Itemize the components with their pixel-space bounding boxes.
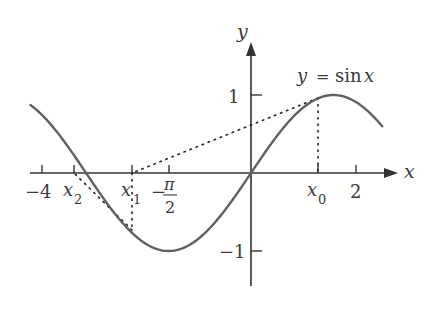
svg-text:sin: sin: [335, 65, 362, 86]
x-tick-label-x0: x 0: [307, 179, 326, 207]
function-label: y = sin x: [296, 65, 374, 86]
newton-construction: [74, 98, 318, 230]
x-tick-label-minus-pi-over-2: − π 2: [151, 175, 177, 217]
svg-text:x: x: [307, 179, 317, 200]
svg-text:0: 0: [318, 192, 326, 207]
x-tick-label-2: 2: [350, 181, 361, 202]
svg-text:=: =: [316, 67, 329, 86]
y-tick-label-minus1: −1: [219, 241, 246, 262]
x-tick-label-x2: x 2: [63, 179, 82, 207]
y-axis-arrow-icon: [246, 42, 256, 56]
x-ticks: [42, 165, 356, 173]
svg-text:x: x: [121, 179, 131, 200]
svg-text:2: 2: [74, 192, 82, 207]
x-tick-label-minus4: −4: [25, 181, 52, 202]
y-axis-label: y: [236, 20, 248, 42]
x-axis-label: x: [404, 160, 415, 182]
x-tick-label-x1: x 1: [121, 179, 141, 207]
svg-text:1: 1: [133, 192, 141, 207]
y-tick-label-1: 1: [228, 86, 239, 107]
svg-text:x: x: [63, 179, 73, 200]
svg-text:y: y: [296, 65, 308, 86]
x-axis-arrow-icon: [384, 168, 398, 178]
svg-text:x: x: [364, 65, 374, 86]
svg-text:π: π: [163, 175, 175, 194]
tangent-at-x0: [132, 98, 318, 173]
svg-text:2: 2: [165, 198, 175, 217]
sine-newton-diagram: y x y = sin x 1 −1 −4 x 2 x 1 − π 2 x 0 …: [0, 0, 430, 314]
